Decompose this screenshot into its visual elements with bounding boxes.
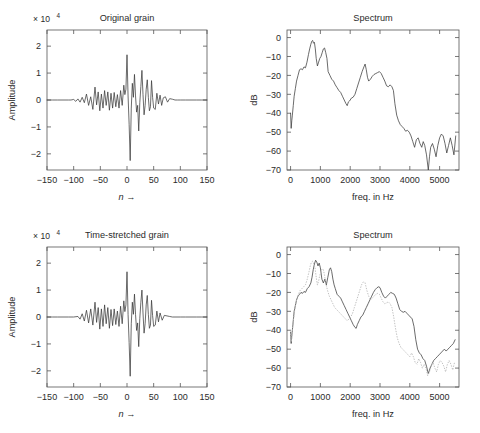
y-tick-label: 1 [36,285,41,295]
plot-panel-original-spectrum: 0100020003000400050000−10−20−30−40−50−60… [240,0,480,216]
x-tick-label: 3000 [370,175,390,185]
plot-title: Time-stretched grain [85,230,169,240]
y-tick-label: −50 [266,344,281,354]
x-tick-label: 5000 [430,392,450,402]
y-tick-label: −10 [266,52,281,62]
x-tick-label: 2000 [340,175,360,185]
x-axis-label: n → [119,192,136,202]
y-tick-label: −2 [31,149,41,159]
y-axis-exponent: × 104 [33,12,61,24]
plot-title: Spectrum [353,230,393,240]
x-tick-label: 100 [173,392,188,402]
x-tick-label: 150 [199,175,214,185]
x-tick-label: −100 [64,392,84,402]
data-curve-main [291,260,456,374]
plot-panel-time-stretched-grain: −150−100−50050100150−2−1012Time-stretche… [0,216,240,433]
y-tick-label: −2 [31,366,41,376]
svg-text:× 10: × 10 [33,231,50,241]
x-tick-label: 5000 [430,175,450,185]
y-tick-label: −20 [266,71,281,81]
y-tick-label: −10 [266,269,281,279]
data-curve-main [291,40,456,170]
y-tick-label: 0 [36,312,41,322]
y-axis-label: Amplitude [7,297,17,338]
data-curve-reference [291,261,455,375]
x-axis-label: n → [119,409,136,419]
plot-panel-stretched-spectrum: 0100020003000400050000−10−20−30−40−50−60… [240,216,480,433]
plot-title: Spectrum [353,13,393,23]
y-tick-label: −60 [266,146,281,156]
y-tick-label: 2 [36,41,41,51]
svg-text:4: 4 [57,229,61,236]
x-tick-label: −50 [93,392,108,402]
x-axis-label: freq. in Hz [352,192,394,202]
x-tick-label: 0 [288,175,293,185]
y-tick-label: −70 [266,382,281,392]
y-tick-label: 1 [36,68,41,78]
y-tick-label: −40 [266,325,281,335]
y-tick-label: 0 [276,33,281,43]
y-axis-label: Amplitude [7,80,17,121]
y-tick-label: 0 [36,95,41,105]
x-tick-label: 50 [149,392,159,402]
y-axis-label: dB [249,94,259,105]
y-tick-label: −30 [266,90,281,100]
svg-text:× 10: × 10 [33,14,50,24]
data-curve-main [47,55,207,161]
y-tick-label: −70 [266,165,281,175]
x-tick-label: 1000 [310,175,330,185]
x-tick-label: 4000 [400,175,420,185]
y-tick-label: −1 [31,122,41,132]
y-tick-label: −30 [266,307,281,317]
x-tick-label: −150 [37,175,57,185]
x-tick-label: 0 [288,392,293,402]
y-tick-label: −20 [266,288,281,298]
y-tick-label: 0 [276,250,281,260]
data-curve-main [47,272,207,376]
x-tick-label: 1000 [310,392,330,402]
y-axis-exponent: × 104 [33,229,61,241]
axes-frame [287,247,459,387]
x-tick-label: 0 [124,392,129,402]
x-tick-label: 50 [149,175,159,185]
x-tick-label: 0 [124,175,129,185]
x-axis-label: freq. in Hz [352,409,394,419]
y-axis-label: dB [249,311,259,322]
y-tick-label: −60 [266,363,281,373]
x-tick-label: −100 [64,175,84,185]
plot-panel-original-grain: −150−100−50050100150−2−1012Original grai… [0,0,240,216]
figure-container: −150−100−50050100150−2−1012Original grai… [0,0,480,433]
x-tick-label: 4000 [400,392,420,402]
plot-title: Original grain [100,13,155,23]
y-tick-label: −50 [266,127,281,137]
y-tick-label: 2 [36,258,41,268]
y-tick-label: −1 [31,339,41,349]
svg-text:4: 4 [57,12,61,19]
x-tick-label: −50 [93,175,108,185]
x-tick-label: −150 [37,392,57,402]
x-tick-label: 3000 [370,392,390,402]
x-tick-label: 2000 [340,392,360,402]
x-tick-label: 150 [199,392,214,402]
y-tick-label: −40 [266,108,281,118]
axes-frame [287,30,459,170]
x-tick-label: 100 [173,175,188,185]
